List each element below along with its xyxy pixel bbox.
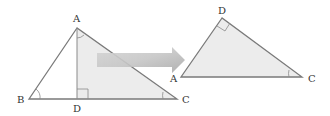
- angle-mark-b: [36, 89, 40, 99]
- label-c-right: C: [308, 73, 316, 84]
- label-d-left: D: [73, 103, 81, 114]
- label-c-left: C: [182, 94, 190, 105]
- triangle-dac: [181, 18, 302, 77]
- label-d-right: D: [218, 5, 226, 16]
- right-triangle-dac: D A C: [169, 5, 316, 84]
- label-b-left: B: [17, 94, 24, 105]
- label-a-left: A: [72, 13, 81, 24]
- similar-triangles-diagram: A B C D D A C: [0, 0, 330, 116]
- label-a-right: A: [169, 73, 178, 84]
